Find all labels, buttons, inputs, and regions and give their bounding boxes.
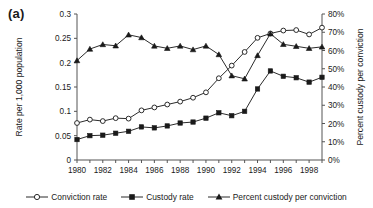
- datapoint-1-1999: [320, 75, 324, 79]
- datapoint-1-1980: [75, 137, 79, 141]
- datapoint-1-1988: [178, 121, 182, 125]
- x-ticklabel-1984: 1984: [119, 166, 138, 175]
- y2-ticklabel-0: 0%: [328, 156, 340, 165]
- x-ticklabel-1980: 1980: [68, 166, 87, 175]
- datapoint-2-1990: [203, 43, 209, 48]
- legend-item-conviction-rate[interactable]: Conviction rate: [26, 192, 107, 202]
- y2-axis-title: Percent custody per conviction: [355, 28, 365, 145]
- y-ticklabel-1: 0.05: [55, 132, 71, 141]
- y2-ticklabel-2: 20%: [328, 120, 344, 129]
- datapoint-0-1984: [126, 116, 131, 121]
- filled-triangle-icon: [208, 192, 230, 202]
- datapoint-2-1988: [177, 43, 183, 48]
- datapoint-0-1999: [320, 25, 325, 30]
- datapoint-0-1997: [294, 28, 299, 33]
- y2-ticklabel-4: 40%: [328, 83, 344, 92]
- y2-ticklabel-8: 80%: [328, 10, 344, 19]
- x-ticklabel-1986: 1986: [145, 166, 164, 175]
- datapoint-1-1991: [217, 111, 221, 115]
- datapoint-0-1996: [281, 28, 286, 33]
- datapoint-1-1992: [230, 114, 234, 118]
- datapoint-1-1994: [255, 87, 259, 91]
- x-ticklabel-1998: 1998: [300, 166, 319, 175]
- y-axis-title: Rate per 1,000 population: [14, 37, 24, 136]
- datapoint-0-1990: [204, 90, 209, 95]
- datapoint-0-1994: [255, 35, 260, 40]
- x-ticklabel-1988: 1988: [171, 166, 190, 175]
- datapoint-1-1987: [165, 124, 169, 128]
- series-line-2: [77, 34, 322, 79]
- datapoint-2-1994: [255, 53, 261, 58]
- datapoint-2-1984: [126, 32, 132, 37]
- datapoint-1-1998: [307, 80, 311, 84]
- datapoint-2-1992: [229, 73, 235, 78]
- x-ticklabel-1992: 1992: [223, 166, 242, 175]
- chart-plot-area: 00.050.10.150.20.250.30%10%20%30%40%50%6…: [0, 0, 373, 180]
- datapoint-1-1983: [113, 131, 117, 135]
- datapoint-1-1981: [88, 133, 92, 137]
- legend-label-conviction-rate: Conviction rate: [51, 192, 107, 202]
- y2-ticklabel-7: 70%: [328, 28, 344, 37]
- series-line-1: [77, 71, 322, 140]
- datapoint-1-1997: [294, 76, 298, 80]
- datapoint-2-1991: [216, 52, 222, 57]
- y-ticklabel-4: 0.2: [60, 59, 72, 68]
- x-axis-title: Year: [191, 179, 209, 180]
- x-ticklabel-1990: 1990: [197, 166, 216, 175]
- chart-svg: 00.050.10.150.20.250.30%10%20%30%40%50%6…: [0, 0, 373, 180]
- legend-label-percent-custody: Percent custody per conviction: [233, 192, 347, 202]
- datapoint-0-1981: [87, 117, 92, 122]
- datapoint-1-1993: [242, 109, 246, 113]
- datapoint-1-1984: [126, 129, 130, 133]
- y2-ticklabel-5: 50%: [328, 65, 344, 74]
- y-ticklabel-3: 0.15: [55, 83, 71, 92]
- x-ticklabel-1996: 1996: [274, 166, 293, 175]
- datapoint-0-1989: [191, 95, 196, 100]
- datapoint-1-1995: [268, 69, 272, 73]
- datapoint-0-1982: [100, 119, 105, 124]
- datapoint-0-1983: [113, 116, 118, 121]
- figure-panel-a: (a) 00.050.10.150.20.250.30%10%20%30%40%…: [0, 0, 373, 208]
- datapoint-2-1986: [152, 43, 158, 48]
- datapoint-1-1989: [191, 120, 195, 124]
- datapoint-0-1988: [178, 99, 183, 104]
- datapoint-0-1985: [139, 108, 144, 113]
- x-ticklabel-1994: 1994: [248, 166, 267, 175]
- legend-label-custody-rate: Custody rate: [146, 192, 193, 202]
- y-ticklabel-5: 0.25: [55, 34, 71, 43]
- datapoint-0-1991: [216, 76, 221, 81]
- datapoint-1-1985: [139, 125, 143, 129]
- datapoint-0-1980: [75, 121, 80, 126]
- x-ticklabel-1982: 1982: [94, 166, 113, 175]
- open-circle-icon: [26, 192, 48, 202]
- y-ticklabel-2: 0.1: [60, 107, 72, 116]
- legend-item-custody-rate[interactable]: Custody rate: [121, 192, 193, 202]
- axis-frame: [77, 14, 322, 160]
- legend-item-percent-custody[interactable]: Percent custody per conviction: [208, 192, 347, 202]
- y-ticklabel-6: 0.3: [60, 10, 72, 19]
- datapoint-1-1996: [281, 74, 285, 78]
- datapoint-0-1993: [242, 50, 247, 55]
- datapoint-1-1986: [152, 126, 156, 130]
- y-ticklabel-0: 0: [66, 156, 71, 165]
- datapoint-0-1987: [165, 102, 170, 107]
- y2-ticklabel-3: 30%: [328, 101, 344, 110]
- y2-ticklabel-1: 10%: [328, 138, 344, 147]
- datapoint-0-1986: [152, 105, 157, 110]
- datapoint-1-1990: [204, 116, 208, 120]
- filled-square-icon: [121, 192, 143, 202]
- datapoint-1-1982: [101, 133, 105, 137]
- datapoint-0-1998: [307, 32, 312, 37]
- chart-legend: Conviction rate Custody rate Percent cus…: [0, 186, 373, 208]
- datapoint-0-1992: [229, 63, 234, 68]
- y2-ticklabel-6: 60%: [328, 47, 344, 56]
